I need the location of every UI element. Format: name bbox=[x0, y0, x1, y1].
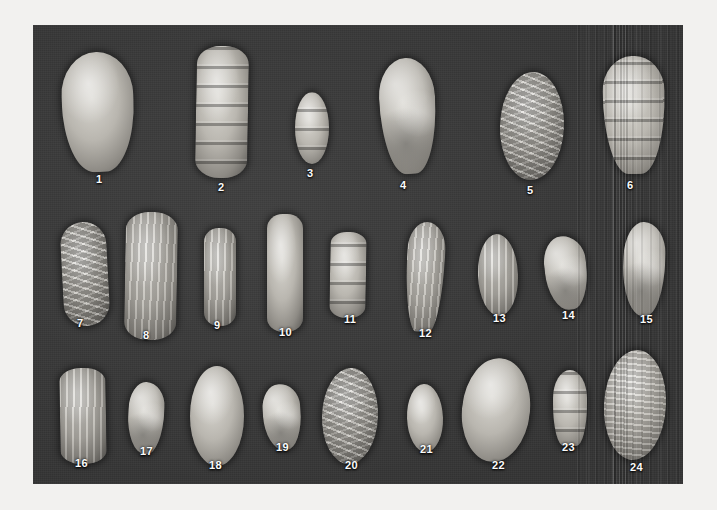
specimen-20 bbox=[320, 367, 379, 465]
specimen-10 bbox=[267, 214, 303, 332]
specimen-12 bbox=[403, 221, 447, 333]
specimen-number-label: 22 bbox=[492, 460, 505, 471]
specimen-body-5 bbox=[498, 71, 566, 181]
specimen-body-17 bbox=[126, 381, 166, 455]
specimen-body-22 bbox=[457, 355, 535, 466]
specimen-plate: 123456789101112131415161718192021222324 bbox=[33, 25, 683, 484]
specimen-number-label: 4 bbox=[400, 180, 406, 191]
specimen-number-label: 17 bbox=[140, 446, 153, 457]
specimen-2 bbox=[195, 46, 249, 179]
specimen-number-label: 12 bbox=[419, 328, 432, 339]
specimen-number-label: 14 bbox=[562, 310, 575, 321]
specimen-number-label: 5 bbox=[527, 185, 533, 196]
specimen-number-label: 24 bbox=[630, 462, 643, 473]
specimen-number-label: 11 bbox=[344, 314, 356, 325]
specimen-body-13 bbox=[477, 233, 520, 316]
specimen-body-14 bbox=[541, 234, 591, 312]
specimen-number-label: 21 bbox=[420, 444, 433, 455]
specimen-body-15 bbox=[621, 221, 666, 316]
specimen-number-label: 19 bbox=[276, 442, 289, 453]
specimen-number-label: 15 bbox=[640, 314, 653, 325]
specimen-body-6 bbox=[602, 55, 666, 174]
specimen-9 bbox=[204, 228, 236, 326]
specimen-23 bbox=[553, 370, 587, 446]
specimen-body-16 bbox=[59, 368, 107, 465]
specimen-body-9 bbox=[204, 228, 236, 326]
specimen-22 bbox=[457, 355, 535, 466]
specimen-4 bbox=[377, 57, 439, 176]
specimen-7 bbox=[59, 221, 110, 327]
specimen-number-label: 18 bbox=[209, 460, 222, 471]
specimen-body-23 bbox=[553, 370, 587, 446]
specimen-body-4 bbox=[377, 57, 439, 176]
specimen-1 bbox=[60, 51, 136, 173]
specimen-number-label: 13 bbox=[493, 313, 506, 324]
specimen-16 bbox=[59, 368, 107, 465]
figure-page: 123456789101112131415161718192021222324 bbox=[0, 0, 717, 510]
specimen-body-20 bbox=[320, 367, 379, 465]
specimen-number-label: 20 bbox=[345, 460, 358, 471]
specimen-body-10 bbox=[267, 214, 303, 332]
specimen-body-8 bbox=[124, 212, 178, 341]
specimen-number-label: 16 bbox=[75, 458, 88, 469]
specimen-24 bbox=[601, 348, 669, 461]
specimen-13 bbox=[477, 233, 520, 316]
specimen-number-label: 7 bbox=[77, 318, 83, 329]
specimen-18 bbox=[190, 366, 244, 466]
specimen-11 bbox=[329, 232, 366, 319]
specimen-number-label: 2 bbox=[218, 182, 224, 193]
specimen-3 bbox=[295, 92, 329, 164]
specimen-body-24 bbox=[601, 348, 669, 461]
specimen-body-7 bbox=[59, 221, 110, 327]
specimen-5 bbox=[498, 71, 566, 181]
specimen-body-3 bbox=[295, 92, 329, 164]
specimen-17 bbox=[126, 381, 166, 455]
specimen-body-11 bbox=[329, 232, 366, 319]
specimen-number-label: 9 bbox=[214, 320, 220, 331]
specimen-number-label: 6 bbox=[627, 180, 633, 191]
specimen-body-2 bbox=[195, 46, 249, 179]
specimen-8 bbox=[124, 212, 178, 341]
specimen-15 bbox=[621, 221, 666, 316]
specimen-number-label: 10 bbox=[279, 327, 292, 338]
specimen-body-1 bbox=[60, 51, 136, 173]
specimen-number-label: 3 bbox=[307, 168, 313, 179]
specimen-body-18 bbox=[190, 366, 244, 466]
specimen-number-label: 23 bbox=[562, 442, 575, 453]
specimen-number-label: 1 bbox=[96, 174, 102, 185]
specimen-body-12 bbox=[403, 221, 447, 333]
specimen-number-label: 8 bbox=[143, 330, 149, 341]
specimen-14 bbox=[541, 234, 591, 312]
specimen-6 bbox=[602, 55, 666, 174]
